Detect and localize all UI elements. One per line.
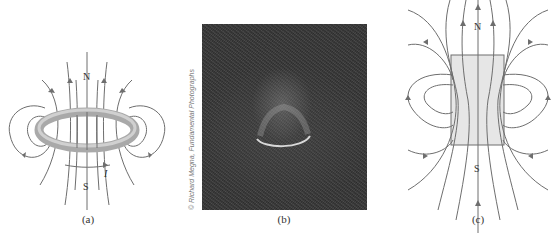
- wire-loop: [257, 136, 310, 146]
- bar-magnet-field-diagram: N S: [368, 0, 552, 233]
- south-label-c: S: [474, 163, 480, 174]
- caption-c: (c): [458, 213, 498, 225]
- panel-c-bar-magnet: N S (c): [368, 0, 552, 233]
- north-label-a: N: [83, 71, 90, 82]
- current-label: I: [103, 168, 108, 179]
- iron-filings-photo: [202, 24, 367, 210]
- current-loop-field-diagram: N S I: [0, 0, 184, 233]
- photo-credit: © Richard Megna, Fundamental Photographs: [188, 69, 195, 210]
- caption-a: (a): [68, 213, 108, 225]
- caption-b: (b): [264, 213, 304, 225]
- panel-a-current-loop: N S I (a): [0, 0, 184, 233]
- north-label-c: N: [474, 21, 481, 32]
- south-label-a: S: [83, 181, 89, 192]
